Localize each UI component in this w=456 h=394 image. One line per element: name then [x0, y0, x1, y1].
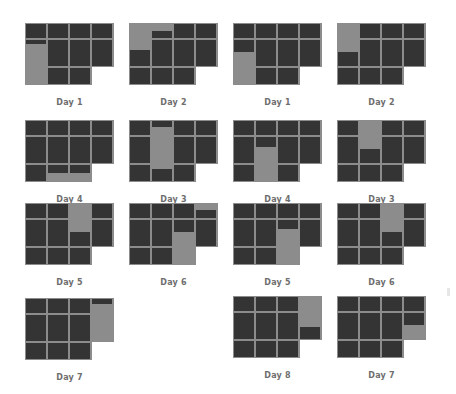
grid-cell	[26, 315, 46, 341]
grid-cell	[70, 248, 90, 264]
grid-cell	[382, 68, 402, 84]
grid-cell	[174, 220, 194, 232]
grid-cell	[196, 40, 216, 66]
panel-label: Day 5	[25, 278, 114, 287]
grid-cell	[300, 121, 320, 135]
grid-cell	[92, 40, 112, 66]
grid-cell	[300, 220, 320, 246]
grid-cell	[130, 165, 150, 181]
grid	[233, 203, 322, 265]
grid-cell	[360, 341, 380, 357]
grid-cell	[256, 313, 276, 339]
grid-cell	[234, 137, 254, 163]
grid-cell	[234, 121, 254, 135]
grid-cell	[338, 204, 358, 218]
grid-cell	[48, 248, 68, 264]
grid-cell	[92, 220, 112, 246]
grid-cell	[256, 248, 276, 264]
grid-cell	[300, 204, 320, 218]
grid-cell	[338, 137, 358, 163]
grid-cell	[404, 137, 424, 163]
grid-cell	[338, 68, 358, 84]
grid-cell	[92, 121, 112, 135]
grid-cell	[278, 313, 298, 339]
grid-cell	[382, 297, 402, 311]
grid-cell	[70, 137, 90, 163]
grid-cell	[70, 165, 90, 173]
grid-cell	[338, 248, 358, 264]
grid-cell	[48, 40, 68, 66]
grid-cell	[382, 137, 402, 163]
grid-cell	[196, 137, 216, 163]
grid	[233, 23, 322, 85]
grid-cell	[404, 220, 424, 246]
grid-cell	[382, 232, 402, 246]
grid-cell	[382, 165, 402, 181]
grid-cell	[360, 68, 380, 84]
grid-cell	[48, 220, 68, 246]
grid-cell	[360, 149, 380, 163]
grid-cell	[130, 137, 150, 163]
grid-cell	[404, 40, 424, 66]
grid	[25, 23, 114, 85]
grid-cell	[70, 40, 90, 66]
grid-cell	[256, 68, 276, 84]
grid-cell	[278, 341, 298, 357]
grid-cell	[130, 50, 150, 66]
grid-cell	[360, 220, 380, 246]
grid-cell	[404, 204, 424, 218]
grid-cell	[152, 31, 172, 38]
grid-cell	[152, 248, 172, 264]
grid-cell	[26, 137, 46, 163]
grid-cell	[338, 341, 358, 357]
grid-cell	[48, 165, 68, 173]
grid	[25, 298, 114, 360]
grid-cell	[130, 248, 150, 264]
grid-cell	[130, 204, 150, 218]
grid-cell	[300, 327, 320, 339]
grid-cell	[382, 341, 402, 357]
grid-cell	[278, 40, 298, 66]
grid-cell	[256, 341, 276, 357]
grid-cell	[92, 24, 112, 38]
panel-label: Day 2	[337, 98, 426, 107]
panel-label: Day 6	[129, 278, 218, 287]
grid-cell	[26, 343, 46, 359]
grid-cell	[48, 24, 68, 38]
grid-cell	[256, 121, 276, 135]
grid-cell	[360, 40, 380, 66]
grid-cell	[152, 68, 172, 84]
panel-label: Day 8	[233, 371, 322, 380]
grid-cell	[234, 248, 254, 264]
grid-cell	[256, 220, 276, 246]
grid-cell	[48, 315, 68, 341]
panel-label: Day 7	[25, 373, 114, 382]
grid-cell	[152, 40, 172, 66]
grid-cell	[338, 313, 358, 339]
grid-cell	[278, 220, 298, 229]
scan-artifact	[447, 288, 450, 296]
grid-cell	[234, 313, 254, 339]
grid	[337, 296, 426, 358]
grid-cell	[278, 68, 298, 84]
grid-cell	[48, 137, 68, 163]
grid-cell	[130, 121, 150, 135]
grid-cell	[196, 220, 216, 246]
grid-cell	[300, 40, 320, 66]
grid-cell	[278, 204, 298, 218]
grid-cell	[278, 165, 298, 181]
panel-label: Day 1	[233, 98, 322, 107]
grid-cell	[234, 297, 254, 311]
grid-cell	[70, 121, 90, 135]
grid-cell	[234, 341, 254, 357]
grid-cell	[26, 40, 46, 44]
grid-cell	[278, 297, 298, 311]
grid-cell	[256, 137, 276, 147]
grid-cell	[360, 248, 380, 264]
grid-cell	[70, 232, 90, 246]
grid-cell	[338, 220, 358, 246]
grid-cell	[234, 40, 254, 52]
grid-cell	[404, 121, 424, 135]
grid-cell	[300, 24, 320, 38]
grid-cell	[70, 68, 90, 84]
